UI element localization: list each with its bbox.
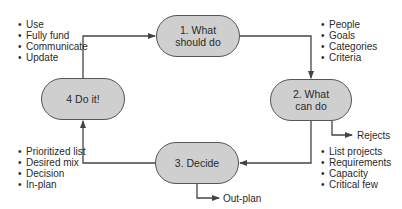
step-4-label: 4 Do it!: [66, 93, 99, 105]
step-3-items-list: Prioritized list Desired mix Decision In…: [18, 146, 85, 190]
step-1-label-line-2: should do: [175, 36, 221, 48]
list-item: Desired mix: [18, 157, 85, 168]
arrow-step3-to-step4: [83, 121, 155, 163]
arrow-step4-to-step1: [83, 36, 155, 78]
list-item: List projects: [321, 146, 391, 157]
list-item: Capacity: [321, 168, 391, 179]
step-2-can-do: 2. What can do: [270, 79, 352, 121]
step-4-items-list: Use Fully fund Communicate Update: [18, 19, 88, 63]
rejects-label: Rejects: [357, 130, 390, 141]
list-item: Use: [18, 19, 88, 30]
out-plan-label: Out-plan: [223, 193, 261, 204]
step-4-do-it: 4 Do it!: [41, 78, 125, 120]
list-item: Update: [18, 52, 88, 63]
list-item: Critical few: [321, 179, 391, 190]
list-item: Requirements: [321, 157, 391, 168]
list-item: Criteria: [321, 52, 377, 63]
arrow-step1-to-step2: [240, 36, 311, 78]
list-item: Communicate: [18, 41, 88, 52]
arrow-rejects: [332, 121, 352, 135]
step-3-decide: 3. Decide: [155, 142, 239, 184]
step-2-label-line-1: 2. What: [293, 88, 329, 100]
step-1-should-do: 1. What should do: [156, 15, 240, 57]
list-item: Prioritized list: [18, 146, 85, 157]
step-3-label: 3. Decide: [175, 157, 219, 169]
arrow-out-plan: [197, 184, 219, 198]
list-item: People: [321, 19, 377, 30]
step-1-items-list: People Goals Categories Criteria: [321, 19, 377, 63]
step-2-items-list: List projects Requirements Capacity Crit…: [321, 146, 391, 190]
list-item: Fully fund: [18, 30, 88, 41]
list-item: In-plan: [18, 179, 85, 190]
list-item: Categories: [321, 41, 377, 52]
step-2-label-line-2: can do: [293, 100, 329, 112]
arrow-step2-to-step3: [240, 121, 311, 163]
step-1-label-line-1: 1. What: [175, 24, 221, 36]
list-item: Decision: [18, 168, 85, 179]
list-item: Goals: [321, 30, 377, 41]
